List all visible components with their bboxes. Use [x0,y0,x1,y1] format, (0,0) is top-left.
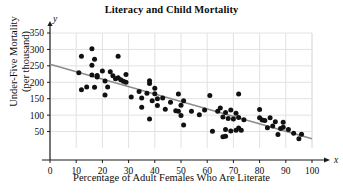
svg-text:50: 50 [35,127,45,137]
svg-text:90: 90 [281,166,291,176]
svg-text:30: 30 [124,166,134,176]
svg-text:40: 40 [150,166,160,176]
scatter-plot-figure: Literacy and Child Mortality Under-Five … [0,0,343,193]
svg-text:10: 10 [71,166,81,176]
svg-text:0: 0 [48,166,53,176]
svg-text:150: 150 [30,94,45,104]
svg-text:20: 20 [98,166,108,176]
svg-text:80: 80 [255,166,265,176]
svg-text:x: x [333,155,339,165]
svg-text:250: 250 [30,61,45,71]
svg-text:350: 350 [30,28,45,38]
plot-canvas: 5010015020025030035001020304050607080901… [0,0,343,193]
svg-text:100: 100 [30,111,45,121]
svg-text:y: y [52,14,58,24]
svg-text:70: 70 [229,166,239,176]
svg-text:60: 60 [202,166,212,176]
svg-text:300: 300 [30,45,45,55]
grid-lines [50,33,312,148]
data-points [76,46,304,141]
svg-text:50: 50 [176,166,186,176]
axes [42,21,330,163]
svg-text:100: 100 [305,166,320,176]
svg-text:200: 200 [30,78,45,88]
